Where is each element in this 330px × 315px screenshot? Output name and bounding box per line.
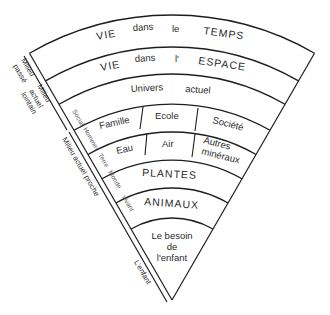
band-labels: VIE dans le TEMPS VIE dans l' ESPACE Uni… [95, 21, 246, 263]
label-animaux: ANIMAUX [144, 195, 200, 211]
label-vie-1: VIE [95, 27, 117, 42]
arc-8 [131, 218, 213, 229]
cell-ecole: Ecole [155, 110, 179, 121]
label-l-apostrophe: l' [175, 53, 179, 64]
label-temps: TEMPS [203, 24, 245, 42]
strip-vivant: vivant [121, 194, 136, 212]
arc-2 [46, 47, 299, 81]
label-besoin-3: l'enfant [157, 252, 188, 263]
label-actuel: actuel [185, 83, 211, 96]
label-plantes: PLANTES [142, 166, 197, 181]
label-le: le [172, 23, 179, 34]
arc-3 [59, 74, 285, 104]
cell-societe: Société [212, 114, 245, 132]
strip-social: Social [71, 108, 86, 127]
left-edge-inner-strip [69, 132, 167, 302]
fan-diagram: VIE dans le TEMPS VIE dans l' ESPACE Uni… [0, 0, 330, 315]
divider-air-autres [192, 134, 195, 157]
divider-ecole-societe [195, 108, 198, 131]
label-besoin-1: Le besoin [151, 230, 192, 241]
label-dans-2: dans [134, 52, 156, 64]
strip-monde: Monde [107, 169, 123, 190]
cell-eau: Eau [115, 142, 134, 156]
strip-terre: Terre [97, 152, 111, 169]
cell-air: Air [162, 138, 174, 149]
label-vie-2: VIE [99, 58, 121, 73]
label-espace: ESPACE [198, 54, 247, 73]
divider-eau-air [145, 133, 147, 155]
label-besoin-2: de [167, 241, 178, 252]
label-univers: Univers [131, 81, 164, 94]
label-dans-1: dans [132, 21, 154, 33]
divider-famille-ecole [140, 107, 143, 129]
